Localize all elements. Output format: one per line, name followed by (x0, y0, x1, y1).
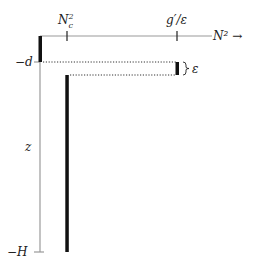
interface-profile (176, 62, 180, 75)
nc2-label: N2c (57, 12, 74, 30)
x-axis-label: N² → (212, 29, 242, 43)
g-over-eps-label: g′/ε (166, 13, 187, 27)
minus-h-label: −H (7, 245, 28, 259)
minus-d-label: −d (15, 55, 33, 69)
epsilon-label: ε (192, 62, 198, 76)
deep-layer-profile (65, 75, 69, 252)
mixed-layer-profile (39, 36, 43, 62)
stratification-diagram: N2c g′/ε N² → −d −H z ε (0, 0, 255, 265)
brace-icon (183, 62, 189, 75)
z-axis-label: z (24, 140, 32, 154)
